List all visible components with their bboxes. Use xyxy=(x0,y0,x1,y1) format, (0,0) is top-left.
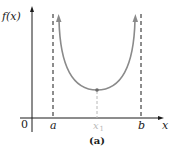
marker-x1-subscript: 1 xyxy=(100,125,104,133)
figure-caption: (a) xyxy=(89,135,105,146)
marker-x1-label: x xyxy=(93,120,99,131)
y-axis-arrow-icon xyxy=(30,6,34,12)
x-axis-label: x xyxy=(162,119,169,132)
u-curve xyxy=(59,20,135,90)
function-plot: f(x) 0 a x 1 b x (a) xyxy=(0,0,177,150)
marker-a-label: a xyxy=(50,119,57,132)
marker-b-label: b xyxy=(138,119,145,132)
origin-label: 0 xyxy=(21,118,28,131)
minimum-point xyxy=(95,88,99,92)
curve-left-arrow-icon xyxy=(56,14,62,22)
y-axis-label: f(x) xyxy=(1,10,21,23)
curve-right-arrow-icon xyxy=(133,14,139,22)
